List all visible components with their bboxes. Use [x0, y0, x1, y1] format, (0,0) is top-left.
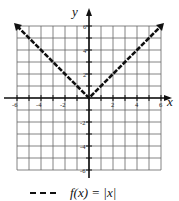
svg-text:2: 2 — [111, 101, 114, 108]
svg-text:2: 2 — [83, 71, 86, 78]
y-axis-label: y — [70, 4, 78, 19]
x-axis-label: x — [166, 94, 173, 109]
svg-text:-4: -4 — [36, 101, 42, 108]
chart: -6-4-2246642-2-4-6 x y — [0, 0, 179, 201]
svg-text:4: 4 — [135, 101, 139, 108]
dashed-line-swatch-icon — [30, 192, 56, 194]
svg-text:-2: -2 — [80, 119, 85, 126]
legend-label: f(x) = |x| — [70, 185, 116, 201]
svg-text:-4: -4 — [80, 143, 86, 150]
svg-text:-6: -6 — [12, 101, 18, 108]
svg-text:-6: -6 — [80, 167, 86, 174]
legend: f(x) = |x| — [30, 184, 179, 201]
svg-text:6: 6 — [159, 101, 163, 108]
svg-text:-2: -2 — [60, 101, 65, 108]
